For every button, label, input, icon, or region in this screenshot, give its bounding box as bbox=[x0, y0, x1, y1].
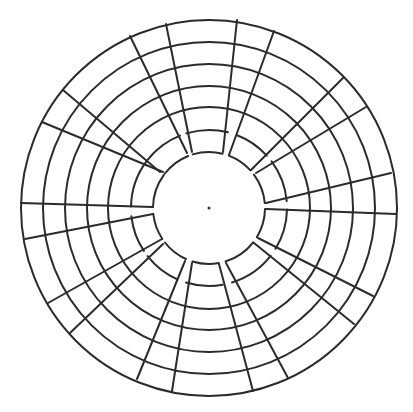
inner-ring-segment bbox=[193, 152, 223, 154]
circular-maze-diagram bbox=[0, 0, 413, 412]
inner-ring-segment bbox=[153, 175, 164, 207]
center-dot bbox=[208, 207, 211, 210]
radial-wall bbox=[256, 107, 366, 173]
inner-ring-segment bbox=[229, 156, 251, 171]
maze-radial-walls bbox=[21, 20, 396, 391]
inner-ring-segment bbox=[186, 283, 223, 286]
inner-ring-segment bbox=[257, 209, 265, 237]
inner-ring-segment bbox=[276, 209, 288, 248]
radial-wall bbox=[229, 31, 274, 155]
radial-wall bbox=[258, 238, 373, 296]
inner-ring-segment bbox=[131, 162, 146, 207]
inner-ring-segment bbox=[272, 161, 287, 201]
radial-wall bbox=[48, 239, 162, 303]
inner-ring-segment bbox=[186, 130, 228, 133]
inner-ring-segment bbox=[232, 256, 271, 283]
inner-ring-segment bbox=[131, 216, 144, 251]
radial-wall bbox=[254, 243, 354, 324]
inner-ring-segment bbox=[254, 175, 265, 204]
radial-wall bbox=[223, 20, 237, 152]
inner-ring-segment bbox=[165, 243, 186, 260]
inner-ring-segment bbox=[226, 242, 254, 261]
inner-ring-segment bbox=[193, 262, 219, 264]
inner-ring-segment bbox=[165, 156, 188, 174]
inner-ring-segment bbox=[153, 214, 162, 239]
radial-wall bbox=[137, 261, 185, 379]
inner-ring-segment bbox=[148, 136, 180, 160]
inner-ring-segment bbox=[237, 135, 267, 156]
inner-ring-segment bbox=[148, 256, 177, 279]
